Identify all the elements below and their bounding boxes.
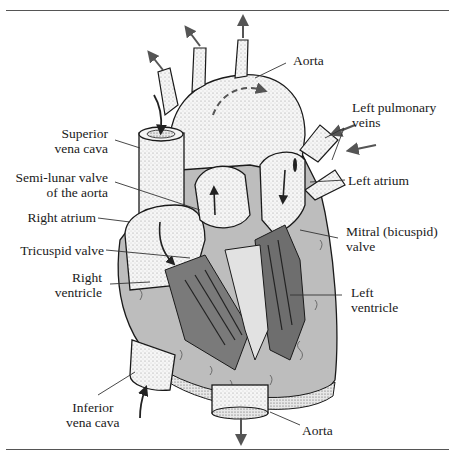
label-left-atrium: Left atrium (348, 173, 409, 188)
label-inferior-vena-cava: Inferior vena cava (66, 400, 120, 430)
label-mitral-valve: Mitral (bicuspid) valve (346, 224, 438, 254)
label-superior-vena-cava: Superior vena cava (54, 126, 108, 156)
left-pulmonary-veins (300, 125, 376, 200)
label-tricuspid-valve: Tricuspid valve (20, 243, 104, 258)
label-semi-lunar-valve: Semi-lunar valve of the aorta (15, 170, 108, 200)
descending-aorta (212, 385, 268, 440)
label-aorta-top: Aorta (293, 53, 324, 68)
label-left-ventricle: Left ventricle (351, 285, 398, 315)
label-right-atrium: Right atrium (27, 210, 96, 225)
label-aorta-bottom: Aorta (302, 423, 333, 438)
label-right-ventricle: Right ventricle (55, 270, 102, 300)
label-left-pulmonary-veins: Left pulmonary veins (352, 100, 436, 130)
pulmonary-trunk (195, 166, 250, 228)
